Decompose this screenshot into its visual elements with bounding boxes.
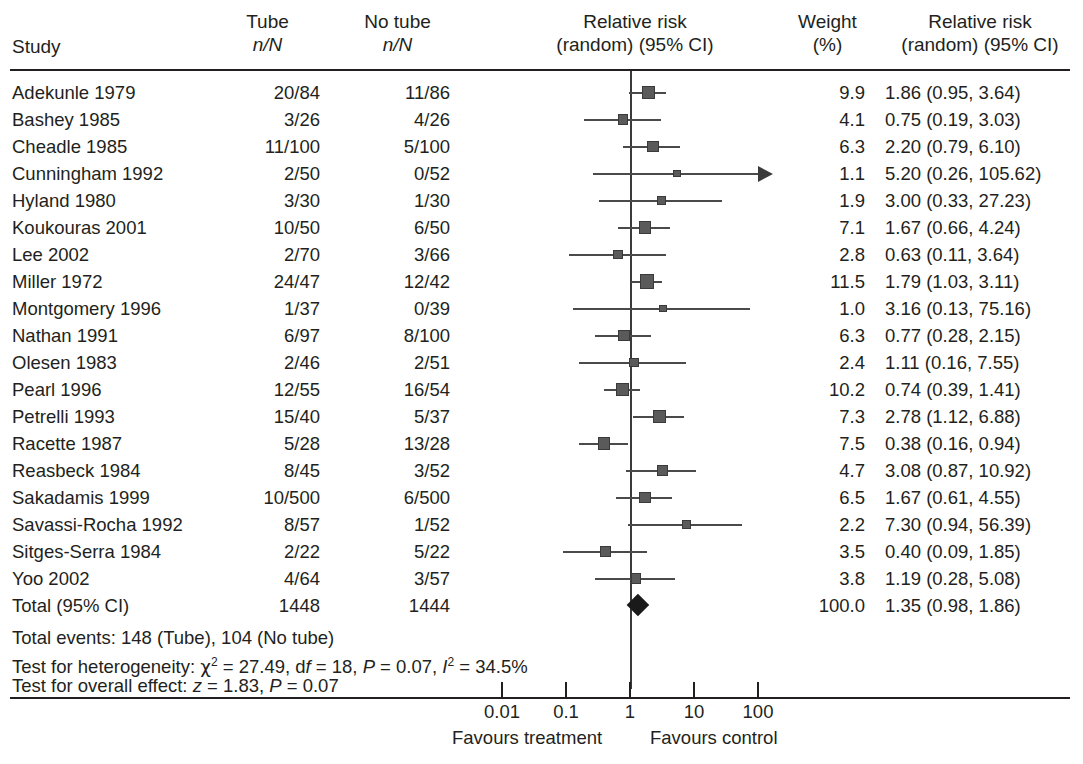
- row-no-tube-value: 3/57: [345, 565, 450, 592]
- row-study-label: Petrelli 1993: [12, 403, 115, 430]
- row-study-label: Montgomery 1996: [12, 295, 161, 322]
- column-header-relative-risk: Relative risk (random) (95% CI): [880, 10, 1080, 56]
- row-weight-value: 9.9: [790, 79, 865, 106]
- row-no-tube-value: 0/39: [345, 295, 450, 322]
- table-row: Sakadamis 199910/5006/5006.51.67 (0.61, …: [0, 484, 1083, 511]
- table-row: Miller 197224/4712/4211.51.79 (1.03, 3.1…: [0, 268, 1083, 295]
- row-study-label: Racette 1987: [12, 430, 122, 457]
- row-no-tube-value: 1/30: [345, 187, 450, 214]
- row-rr-value: 7.30 (0.94, 56.39): [885, 511, 1077, 538]
- row-rr-value: 1.86 (0.95, 3.64): [885, 79, 1077, 106]
- axis-tick: [501, 682, 503, 697]
- row-rr-value: 1.35 (0.98, 1.86): [885, 592, 1077, 619]
- row-weight-value: 2.2: [790, 511, 865, 538]
- row-weight-value: 7.5: [790, 430, 865, 457]
- column-header-plot-line2: (random) (95% CI): [520, 33, 750, 56]
- forest-plot: Study Tube n/N No tube n/N Relative risk…: [0, 0, 1083, 764]
- row-study-label: Lee 2002: [12, 241, 89, 268]
- row-tube-value: 2/70: [215, 241, 320, 268]
- row-study-label: Miller 1972: [12, 268, 103, 295]
- row-weight-value: 3.8: [790, 565, 865, 592]
- table-row: Lee 20022/703/662.80.63 (0.11, 3.64): [0, 241, 1083, 268]
- row-weight-value: 4.7: [790, 457, 865, 484]
- row-no-tube-value: 5/37: [345, 403, 450, 430]
- row-study-label: Cheadle 1985: [12, 133, 127, 160]
- row-tube-value: 2/46: [215, 349, 320, 376]
- row-tube-value: 8/57: [215, 511, 320, 538]
- row-tube-value: 10/50: [215, 214, 320, 241]
- row-no-tube-value: 13/28: [345, 430, 450, 457]
- row-no-tube-value: 6/500: [345, 484, 450, 511]
- row-study-label: Total (95% CI): [12, 592, 129, 619]
- row-tube-value: 12/55: [215, 376, 320, 403]
- table-row: Savassi-Rocha 19928/571/522.27.30 (0.94,…: [0, 511, 1083, 538]
- table-row: Yoo 20024/643/573.81.19 (0.28, 5.08): [0, 565, 1083, 592]
- row-weight-value: 1.0: [790, 295, 865, 322]
- row-rr-value: 1.11 (0.16, 7.55): [885, 349, 1077, 376]
- column-header-tube-line1: Tube: [246, 11, 289, 32]
- row-weight-value: 3.5: [790, 538, 865, 565]
- axis-tick: [693, 682, 695, 697]
- overall-pval: = 0.07: [282, 675, 339, 696]
- row-study-label: Adekunle 1979: [12, 79, 135, 106]
- row-tube-value: 24/47: [215, 268, 320, 295]
- table-row: Reasbeck 19848/453/524.73.08 (0.87, 10.9…: [0, 457, 1083, 484]
- row-tube-value: 6/97: [215, 322, 320, 349]
- table-row: Nathan 19916/978/1006.30.77 (0.28, 2.15): [0, 322, 1083, 349]
- p-symbol-overall: P: [269, 675, 281, 696]
- row-tube-value: 1/37: [215, 295, 320, 322]
- column-header-tube: Tube n/N: [215, 10, 320, 56]
- column-header-study: Study: [12, 36, 61, 58]
- header-divider: [10, 69, 1070, 71]
- row-rr-value: 0.40 (0.09, 1.85): [885, 538, 1077, 565]
- row-tube-value: 20/84: [215, 79, 320, 106]
- heterogeneity-pval: = 0.07,: [375, 656, 442, 677]
- row-tube-value: 5/28: [215, 430, 320, 457]
- row-tube-value: 8/45: [215, 457, 320, 484]
- table-row: Olesen 19832/462/512.41.11 (0.16, 7.55): [0, 349, 1083, 376]
- row-tube-value: 10/500: [215, 484, 320, 511]
- row-tube-value: 2/22: [215, 538, 320, 565]
- row-tube-value: 4/64: [215, 565, 320, 592]
- column-header-no-tube-line1: No tube: [364, 11, 431, 32]
- row-study-label: Sitges-Serra 1984: [12, 538, 161, 565]
- chi-exponent: 2: [211, 655, 218, 669]
- row-no-tube-value: 2/51: [345, 349, 450, 376]
- row-no-tube-value: 6/50: [345, 214, 450, 241]
- row-no-tube-value: 5/100: [345, 133, 450, 160]
- heterogeneity-isq: = 34.5%: [454, 656, 528, 677]
- row-weight-value: 2.8: [790, 241, 865, 268]
- row-rr-value: 2.20 (0.79, 6.10): [885, 133, 1077, 160]
- row-weight-value: 6.3: [790, 322, 865, 349]
- favours-control-label: Favours control: [650, 727, 778, 749]
- row-weight-value: 6.3: [790, 133, 865, 160]
- axis-tick: [629, 682, 631, 697]
- row-no-tube-value: 11/86: [345, 79, 450, 106]
- table-row: Cunningham 19922/500/521.15.20 (0.26, 10…: [0, 160, 1083, 187]
- row-rr-value: 1.67 (0.66, 4.24): [885, 214, 1077, 241]
- row-rr-value: 1.67 (0.61, 4.55): [885, 484, 1077, 511]
- row-study-label: Nathan 1991: [12, 322, 118, 349]
- row-study-label: Olesen 1983: [12, 349, 117, 376]
- row-no-tube-value: 1/52: [345, 511, 450, 538]
- row-rr-value: 5.20 (0.26, 105.62): [885, 160, 1077, 187]
- axis-line: [10, 697, 1070, 699]
- row-weight-value: 4.1: [790, 106, 865, 133]
- table-row: Cheadle 198511/1005/1006.32.20 (0.79, 6.…: [0, 133, 1083, 160]
- row-study-label: Bashey 1985: [12, 106, 120, 133]
- row-rr-value: 0.38 (0.16, 0.94): [885, 430, 1077, 457]
- row-study-label: Cunningham 1992: [12, 160, 163, 187]
- table-row: Racette 19875/2813/287.50.38 (0.16, 0.94…: [0, 430, 1083, 457]
- column-header-plot: Relative risk (random) (95% CI): [520, 10, 750, 56]
- column-header-rr-line2: (random) (95% CI): [880, 33, 1080, 56]
- row-no-tube-value: 4/26: [345, 106, 450, 133]
- row-tube-value: 15/40: [215, 403, 320, 430]
- row-tube-value: 1448: [215, 592, 320, 619]
- column-header-weight-line2: (%): [780, 33, 875, 56]
- row-study-label: Reasbeck 1984: [12, 457, 141, 484]
- row-tube-value: 2/50: [215, 160, 320, 187]
- row-weight-value: 7.3: [790, 403, 865, 430]
- row-rr-value: 2.78 (1.12, 6.88): [885, 403, 1077, 430]
- row-study-label: Yoo 2002: [12, 565, 90, 592]
- row-no-tube-value: 3/52: [345, 457, 450, 484]
